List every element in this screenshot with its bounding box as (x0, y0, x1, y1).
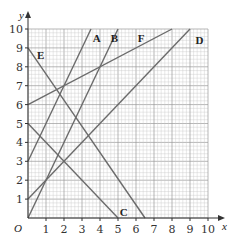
series-labels: ABCDEF (37, 32, 203, 218)
x-axis-label: x (221, 220, 227, 232)
x-tick-label: 8 (169, 223, 176, 236)
x-tick-label: 9 (187, 223, 194, 236)
y-tick-label: 3 (16, 155, 23, 168)
series-label-c: C (120, 206, 128, 218)
series-label-e: E (37, 49, 44, 61)
y-tick-label: 8 (16, 61, 23, 74)
series-label-a: A (93, 32, 101, 44)
origin-label: O (14, 222, 22, 234)
x-tick-label: 3 (79, 223, 86, 236)
y-tick-label: 5 (16, 118, 23, 131)
line-c (28, 124, 118, 219)
x-tick-label: 4 (97, 223, 104, 236)
y-axis-label: y (18, 9, 24, 21)
y-axis-arrow-icon (25, 11, 31, 18)
x-tick-label: 2 (61, 223, 68, 236)
y-tick-label: 10 (9, 23, 23, 36)
y-tick-label: 1 (16, 193, 23, 206)
x-tick-label: 1 (43, 223, 50, 236)
x-tick-label: 6 (133, 223, 140, 236)
x-tick-label: 5 (115, 223, 122, 236)
x-tick-label: 10 (201, 223, 215, 236)
line-chart: 1234567891012345678910Oxy ABCDEF (0, 0, 228, 244)
x-tick-label: 7 (151, 223, 158, 236)
series-label-b: B (111, 32, 119, 44)
y-tick-label: 7 (16, 80, 23, 93)
line-d (28, 29, 190, 199)
y-tick-label: 9 (16, 42, 23, 55)
y-tick-label: 2 (16, 174, 23, 187)
series-label-f: F (138, 32, 145, 44)
series-label-d: D (195, 34, 203, 46)
y-tick-label: 6 (16, 99, 23, 112)
y-tick-label: 4 (16, 136, 23, 149)
